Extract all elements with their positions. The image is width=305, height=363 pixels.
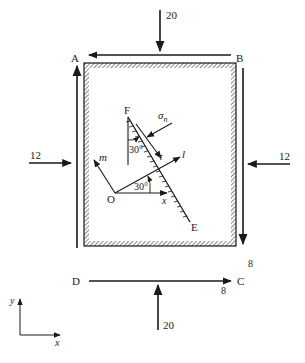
origin-label-o: O xyxy=(107,193,115,205)
corner-label-a: A xyxy=(71,52,79,64)
top-load-label: 20 xyxy=(166,9,178,21)
global-x-label: x xyxy=(54,337,60,348)
corner-label-c: C xyxy=(237,275,244,287)
left-load-label: 12 xyxy=(30,149,41,161)
l-direction-label: l xyxy=(182,148,185,160)
right-shear-label: 8 xyxy=(248,258,253,269)
angle-label-f: 30° xyxy=(129,144,143,155)
right-load-label: 12 xyxy=(279,150,290,162)
point-label-e: E xyxy=(191,221,198,233)
corner-label-d: D xyxy=(72,275,80,287)
angle-label-o: 30° xyxy=(134,181,148,192)
m-direction-label: m xyxy=(99,151,107,163)
point-label-f: F xyxy=(124,104,130,116)
bottom-shear-label: 8 xyxy=(221,285,226,296)
tau-label: τ xyxy=(159,151,163,162)
corner-label-b: B xyxy=(236,52,243,64)
bottom-load-label: 20 xyxy=(163,319,175,331)
x-direction-label: x xyxy=(161,195,167,206)
global-y-label: y xyxy=(9,295,15,306)
global-axes xyxy=(20,299,60,335)
stress-element-diagram: 20 20 12 12 8 8 A B C D xyxy=(0,0,305,363)
